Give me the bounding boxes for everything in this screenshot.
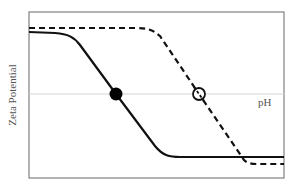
dashed-curve xyxy=(29,28,284,164)
y-axis-label-text: Zeta Potential xyxy=(6,64,18,125)
x-axis-label: pH xyxy=(258,96,271,108)
filled-marker xyxy=(110,88,123,101)
open-marker xyxy=(193,88,205,100)
zeta-potential-chart xyxy=(0,0,299,188)
plot-frame xyxy=(29,12,284,178)
y-axis-label: Zeta Potential xyxy=(6,87,18,103)
